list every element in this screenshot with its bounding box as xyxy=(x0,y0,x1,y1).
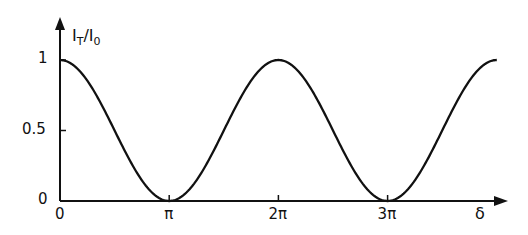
y-tick-label: 0.5 xyxy=(22,122,46,137)
x-tick-label: π xyxy=(164,207,173,222)
y-axis-arrow-icon xyxy=(55,17,65,30)
data-curve xyxy=(60,60,497,201)
x-axis-arrow-icon xyxy=(494,196,508,206)
x-tick-label: 2π xyxy=(268,207,287,222)
x-tick-label: 3π xyxy=(378,207,397,222)
x-tick-label: 0 xyxy=(55,207,65,222)
x-axis-title: δ xyxy=(475,206,485,222)
y-tick-label: 1 xyxy=(38,51,48,66)
y-tick-label: 0 xyxy=(38,192,48,207)
y-axis-title: IT/I0 xyxy=(72,28,101,47)
chart: IT/I0 0π2π3π00.51 δ xyxy=(0,0,528,235)
